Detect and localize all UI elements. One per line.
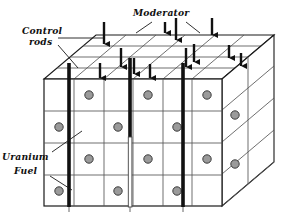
leader-moderator-b xyxy=(186,22,200,33)
leader-moderator-a xyxy=(136,22,152,33)
label-control-rods-line2: rods xyxy=(29,36,52,47)
diagram-canvas: Control rods Moderator Uranium Fuel xyxy=(0,0,284,214)
label-uranium-fuel-line2: Fuel xyxy=(13,165,37,176)
control-rod-2-partly-withdrawn[interactable] xyxy=(128,58,132,212)
label-moderator: Moderator xyxy=(132,7,190,18)
label-control-rods-line1: Control xyxy=(22,25,63,36)
reactor-core-diagram: Control rods Moderator Uranium Fuel xyxy=(0,0,284,214)
label-uranium-fuel-line1: Uranium xyxy=(2,151,49,162)
